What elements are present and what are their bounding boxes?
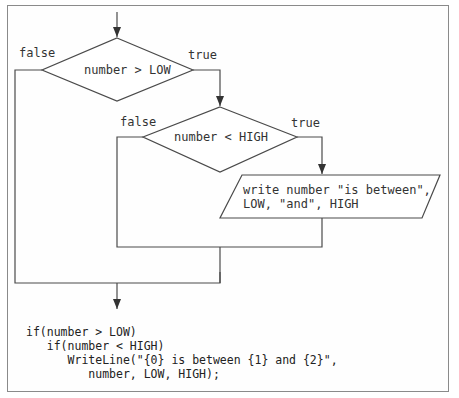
output-text-line2: LOW, "and", HIGH — [243, 197, 359, 211]
decision-low-text: number > LOW — [84, 63, 171, 77]
arrowhead-icon — [113, 299, 121, 309]
decision-high-true-label: true — [291, 116, 320, 130]
arrowhead-icon — [216, 96, 224, 106]
decision-high-false-label: false — [120, 115, 156, 129]
code-listing: if(number > LOW) if(number < HIGH) Write… — [26, 325, 338, 381]
arrowhead-icon — [318, 164, 326, 174]
code-line: WriteLine("{0} is between {1} and {2}", — [26, 353, 338, 367]
decision-high-text: number < HIGH — [174, 130, 268, 144]
code-line: number, LOW, HIGH); — [26, 367, 338, 381]
decision-low-true-label: true — [188, 48, 217, 62]
arrowhead-icon — [113, 27, 121, 37]
code-line: if(number > LOW) — [26, 325, 338, 339]
output-text-line1: write number "is between", — [243, 183, 431, 197]
code-line: if(number < HIGH) — [26, 339, 338, 353]
decision-low-false-label: false — [19, 46, 55, 60]
